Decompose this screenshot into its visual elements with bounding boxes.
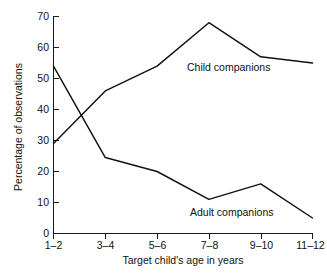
- y-tick-label-70: 70: [37, 10, 49, 22]
- x-axis-ticks: [54, 234, 313, 239]
- y-tick-label-30: 30: [37, 134, 49, 146]
- series-line-adult-companions: [54, 66, 313, 218]
- y-tick-label-60: 60: [37, 41, 49, 53]
- x-tick-label-2: 3–4: [97, 239, 115, 251]
- line-chart: 0 10 20 30 40 50 60 70 1–2 3–4 5–6 7–8 9…: [0, 0, 327, 273]
- x-tick-label-1: 1–2: [45, 239, 63, 251]
- y-tick-label-20: 20: [37, 165, 49, 177]
- y-tick-label-50: 50: [37, 72, 49, 84]
- series-label-child-companions: Child companions: [187, 61, 270, 73]
- x-tick-label-3: 5–6: [149, 239, 167, 251]
- x-axis-title: Target child's age in years: [122, 254, 243, 266]
- x-tick-label-5: 9–10: [250, 239, 274, 251]
- chart-canvas: 0 10 20 30 40 50 60 70 1–2 3–4 5–6 7–8 9…: [0, 0, 327, 273]
- y-axis-title: Percentage of observations: [12, 63, 24, 191]
- series-line-child-companions: [54, 23, 313, 144]
- axis-lines: [54, 16, 313, 234]
- x-tick-label-4: 7–8: [201, 239, 219, 251]
- series-label-adult-companions: Adult companions: [190, 206, 273, 218]
- y-axis-ticks: [54, 17, 59, 234]
- x-tick-label-6: 11–12: [296, 239, 325, 251]
- y-tick-label-0: 0: [43, 227, 49, 239]
- y-tick-label-10: 10: [37, 196, 49, 208]
- y-tick-label-40: 40: [37, 103, 49, 115]
